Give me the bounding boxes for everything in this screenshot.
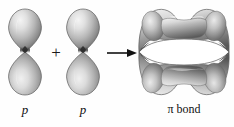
label-pi-bond: π bond xyxy=(142,103,226,115)
p-orbital-1-top-lobe xyxy=(9,9,42,52)
pi-bond-label-text: bond xyxy=(174,102,201,116)
label-p-orbital-1: p xyxy=(4,103,46,116)
p-orbital-1-graphic xyxy=(0,6,50,98)
pi-bond-bottom-bar xyxy=(161,66,207,86)
p-orbital-2 xyxy=(58,6,108,98)
reaction-arrow-icon xyxy=(106,44,138,62)
p-orbital-2-node-shading xyxy=(78,47,88,53)
reaction-arrow xyxy=(106,44,138,62)
pi-bond-formation-figure: + xyxy=(0,0,234,127)
p-orbital-1-node-shading xyxy=(20,47,30,53)
label-p-orbital-2: p xyxy=(62,103,104,116)
p-orbital-1 xyxy=(0,6,50,98)
pi-bond-top-bar xyxy=(161,18,207,38)
p-orbital-2-top-lobe xyxy=(67,9,100,52)
pi-bond-graphic xyxy=(136,6,232,98)
pi-bond-nodal-gap xyxy=(139,39,229,65)
p-orbital-2-graphic xyxy=(58,6,108,98)
p-orbital-1-bottom-lobe xyxy=(9,52,42,95)
p-orbital-2-bottom-lobe xyxy=(67,52,100,95)
pi-bond-orbital xyxy=(136,6,232,98)
